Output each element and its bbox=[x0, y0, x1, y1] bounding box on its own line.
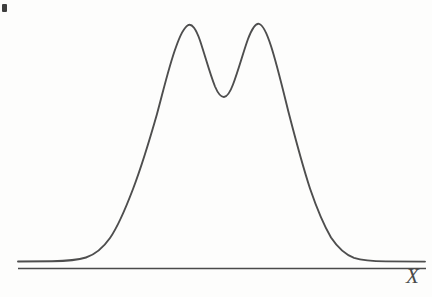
bimodal-density-plot bbox=[0, 0, 432, 297]
density-curve bbox=[18, 24, 425, 262]
figure-container: X bbox=[0, 0, 432, 297]
x-axis-label: X bbox=[406, 266, 419, 287]
